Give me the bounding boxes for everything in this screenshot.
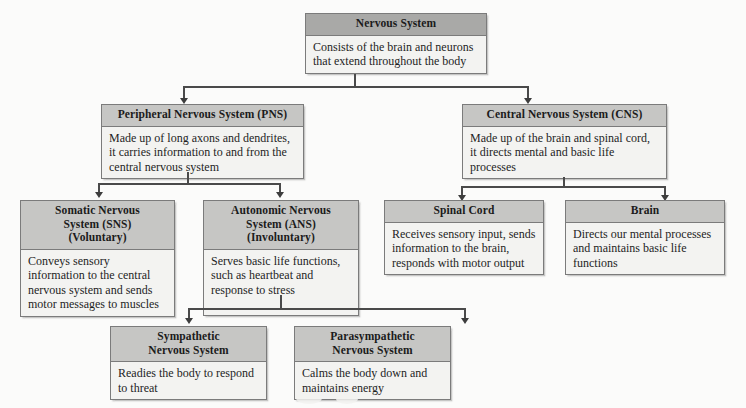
node-autonomic-nervous-system-title-line2: System (ANS)	[208, 218, 354, 232]
node-somatic-nervous-system-body: Conveys sensory information to the centr…	[21, 250, 174, 316]
node-somatic-nervous-system: Somatic Nervous System (SNS) (Voluntary)…	[20, 200, 175, 317]
arrow-ans-to-sympathetic	[185, 318, 193, 324]
node-nervous-system-title: Nervous System	[306, 14, 486, 36]
node-autonomic-nervous-system-title: Autonomic Nervous System (ANS) (Involunt…	[204, 201, 358, 250]
node-sympathetic-nervous-system-body: Readies the body to respond to threat	[111, 362, 266, 399]
node-parasympathetic-nervous-system-title: Parasympathetic Nervous System	[295, 327, 450, 362]
node-parasympathetic-nervous-system: Parasympathetic Nervous System Calms the…	[294, 326, 451, 400]
node-central-nervous-system: Central Nervous System (CNS) Made up of …	[462, 104, 667, 179]
node-autonomic-nervous-system-title-line3: (Involuntary)	[208, 231, 354, 245]
arrow-ans-to-parasympathetic	[461, 318, 469, 324]
scan-artifact	[296, 392, 322, 404]
node-sympathetic-nervous-system-title-line1: Sympathetic	[115, 330, 262, 344]
connector-cns-bar	[461, 186, 665, 188]
node-central-nervous-system-body: Made up of the brain and spinal cord, it…	[463, 127, 666, 179]
node-somatic-nervous-system-title-line2: System (SNS)	[25, 218, 170, 232]
node-sympathetic-nervous-system-title: Sympathetic Nervous System	[111, 327, 266, 362]
node-peripheral-nervous-system: Peripheral Nervous System (PNS) Made up …	[101, 104, 304, 179]
node-autonomic-nervous-system-title-line1: Autonomic Nervous	[208, 204, 354, 218]
node-sympathetic-nervous-system-title-line2: Nervous System	[115, 344, 262, 358]
node-brain-body: Directs our mental processes and maintai…	[566, 223, 724, 275]
arrow-pns-to-ans	[276, 192, 284, 198]
node-sympathetic-nervous-system: Sympathetic Nervous System Readies the b…	[110, 326, 267, 400]
arrow-pns-to-sns	[95, 192, 103, 198]
node-spinal-cord: Spinal Cord Receives sensory input, send…	[384, 200, 544, 275]
node-somatic-nervous-system-title-line1: Somatic Nervous	[25, 204, 170, 218]
connector-root-bar	[183, 86, 528, 88]
connector-ans-stem	[280, 295, 282, 309]
connector-pns-bar	[98, 183, 280, 185]
connector-ans-bar	[188, 308, 465, 310]
node-spinal-cord-body: Receives sensory input, sends informatio…	[385, 223, 543, 275]
node-brain: Brain Directs our mental processes and m…	[565, 200, 725, 275]
node-spinal-cord-title: Spinal Cord	[385, 201, 543, 223]
node-brain-title: Brain	[566, 201, 724, 223]
node-central-nervous-system-title: Central Nervous System (CNS)	[463, 105, 666, 127]
node-somatic-nervous-system-title: Somatic Nervous System (SNS) (Voluntary)	[21, 201, 174, 250]
node-peripheral-nervous-system-title: Peripheral Nervous System (PNS)	[102, 105, 303, 127]
nervous-system-flowchart: Nervous System Consists of the brain and…	[0, 0, 746, 408]
node-parasympathetic-nervous-system-title-line1: Parasympathetic	[299, 330, 446, 344]
node-somatic-nervous-system-title-line3: (Voluntary)	[25, 231, 170, 245]
node-parasympathetic-nervous-system-title-line2: Nervous System	[299, 344, 446, 358]
node-nervous-system-body: Consists of the brain and neurons that e…	[306, 36, 486, 73]
node-nervous-system: Nervous System Consists of the brain and…	[305, 13, 487, 74]
scan-artifact	[336, 394, 358, 404]
node-peripheral-nervous-system-body: Made up of long axons and dendrites, it …	[102, 127, 303, 179]
